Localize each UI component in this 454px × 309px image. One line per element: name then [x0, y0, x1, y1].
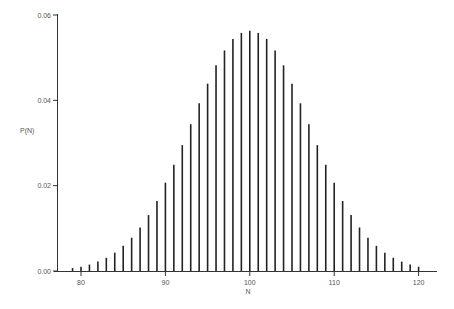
x-ticks: 8090100110120 [77, 271, 424, 286]
y-tick-label: 0.06 [37, 12, 51, 19]
y-tick-label: 0.04 [37, 97, 51, 104]
x-tick-label: 90 [162, 279, 170, 286]
y-ticks: 0.000.020.040.06 [37, 12, 57, 275]
y-tick-label: 0.00 [37, 268, 51, 275]
x-tick-label: 100 [244, 279, 256, 286]
x-tick-label: 110 [329, 279, 340, 286]
y-axis-label: P(N) [20, 127, 34, 135]
x-tick-label: 120 [413, 279, 425, 286]
bars [73, 31, 419, 271]
x-axis-label: N [245, 288, 250, 295]
x-tick-label: 80 [77, 279, 85, 286]
y-tick-label: 0.02 [37, 182, 51, 189]
probability-distribution-chart: 0.000.020.040.06 8090100110120 N P(N) [0, 0, 454, 309]
axes [54, 14, 437, 272]
